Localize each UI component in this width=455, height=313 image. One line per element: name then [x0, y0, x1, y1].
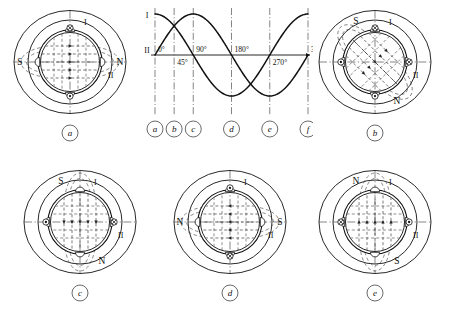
pole-label-left-d: N: [177, 217, 184, 227]
chart-tick-45°: 45°: [177, 58, 188, 67]
stator-panel-e: NSIIIe: [303, 156, 453, 306]
chart-tick-180°: 180°: [235, 45, 249, 54]
stator-panel-a: SNIIIa: [0, 0, 148, 146]
coil-label-phase2-b: II: [413, 71, 419, 80]
stator-panel-c: SNIIIc: [8, 156, 158, 306]
pole-label-left-a: S: [17, 57, 22, 67]
chart-marker-e: e: [268, 124, 272, 134]
chart-label-series-I: I: [146, 11, 149, 20]
coil-label-phase2-d: II: [268, 231, 274, 240]
coil-label-phase2-e: II: [413, 231, 419, 240]
chart-marker-b: b: [172, 124, 177, 134]
pole-label-bottom-e: S: [394, 256, 399, 266]
coil-label-phase1-c: I: [94, 178, 97, 187]
panel-caption-b: b: [373, 128, 378, 138]
phase-waveform-chart: III0°45°90°180°270°360°abcdef: [143, 0, 313, 146]
coil-label-phase1-b: I: [389, 18, 392, 27]
coil-label-phase2-a: II: [108, 71, 114, 80]
panel-caption-d: d: [228, 288, 233, 298]
pole-label-top-c: S: [58, 176, 63, 186]
chart-marker-c: c: [191, 124, 195, 134]
chart-marker-a: a: [153, 124, 158, 134]
panel-caption-a: a: [68, 128, 73, 138]
panel-caption-e: e: [373, 288, 377, 298]
panel-caption-c: c: [78, 288, 82, 298]
chart-marker-d: d: [229, 124, 234, 134]
pole-label-bottom-b: N: [394, 96, 401, 106]
pole-label-bottom-c: N: [99, 256, 106, 266]
figure-root: SNIIIaIII0°45°90°180°270°360°abcdefSNIII…: [0, 0, 455, 313]
chart-label-series-II: II: [144, 46, 150, 55]
coil-label-phase2-c: II: [118, 231, 124, 240]
pole-label-right-a: N: [117, 57, 124, 67]
stator-panel-b: SNIIIb: [303, 0, 453, 146]
coil-label-phase1-d: I: [244, 178, 247, 187]
chart-tick-0°: 0°: [158, 45, 165, 54]
chart-tick-270°: 270°: [273, 58, 287, 67]
chart-tick-90°: 90°: [196, 45, 207, 54]
stator-panel-d: NSIIId: [158, 156, 308, 306]
coil-label-phase1-e: I: [389, 178, 392, 187]
pole-label-top-e: N: [353, 176, 360, 186]
coil-label-phase1-a: I: [84, 18, 87, 27]
pole-label-top-b: S: [353, 16, 358, 26]
pole-label-right-d: S: [277, 217, 282, 227]
